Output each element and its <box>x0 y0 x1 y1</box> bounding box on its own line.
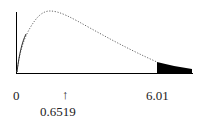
shaded-tail-region <box>157 62 192 74</box>
density-chart <box>0 0 203 124</box>
arrow-value-label: 0.6519 <box>40 105 76 118</box>
density-curve-rise <box>17 34 26 72</box>
density-curve <box>17 11 157 72</box>
arrow-up-icon: ↑ <box>62 88 69 101</box>
critical-value-label: 6.01 <box>146 89 169 102</box>
origin-tick-label: 0 <box>13 89 20 102</box>
